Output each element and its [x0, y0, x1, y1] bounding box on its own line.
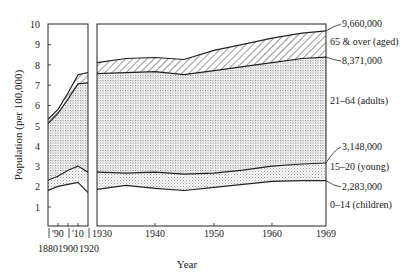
- x-tick-1960: 1960: [262, 228, 282, 239]
- y-axis-title: Population (per 100,000): [12, 70, 25, 181]
- x-tick-1940: 1940: [145, 228, 165, 239]
- y-tick-10: 10: [30, 19, 40, 30]
- x-axis-title: Year: [177, 258, 198, 270]
- x-tick-1969: 1969: [316, 228, 336, 239]
- annotations: 9,660,000 65 & over (aged) 8,371,000 21–…: [330, 18, 399, 211]
- adults-label: 21–64 (adults): [330, 95, 388, 107]
- adults-top-annotation: 8,371,000: [342, 55, 382, 66]
- x-tick-1910: '10: [72, 228, 84, 239]
- young-top-annotation: 3,148,000: [342, 141, 382, 152]
- y-tick-1: 1: [35, 202, 40, 213]
- y-tick-8: 8: [35, 60, 40, 71]
- y-tick-7: 7: [35, 80, 40, 91]
- young-label: 15–20 (young): [330, 161, 389, 173]
- children-label: 0–14 (children): [330, 199, 392, 211]
- population-chart: 10 9 8 7 6 5 4 3 2 1 Population (per 100…: [0, 0, 420, 278]
- y-tick-9: 9: [35, 39, 40, 50]
- aged-label: 65 & over (aged): [330, 36, 399, 48]
- right-panel-areas: [97, 31, 326, 191]
- x-axis-labels: '90 '10 1930 1880 1900 1920 1940 1950 19…: [38, 228, 336, 270]
- x-tick-1930: 1930: [92, 228, 112, 239]
- y-tick-3: 3: [35, 161, 40, 172]
- y-tick-6: 6: [35, 100, 40, 111]
- x-tick-1950: 1950: [204, 228, 224, 239]
- left-panel-areas: [48, 73, 88, 193]
- x-tick-1880: 1880: [38, 243, 58, 254]
- y-axis: 10 9 8 7 6 5 4 3 2 1 Population (per 100…: [12, 19, 51, 213]
- y-tick-2: 2: [35, 181, 40, 192]
- total-annotation: 9,660,000: [342, 18, 382, 29]
- x-tick-1900: 1900: [58, 243, 78, 254]
- y-tick-5: 5: [35, 121, 40, 132]
- x-tick-1890: '90: [52, 228, 64, 239]
- y-tick-4: 4: [35, 141, 40, 152]
- children-top-annotation: 2,283,000: [342, 181, 382, 192]
- x-tick-1920: 1920: [79, 243, 99, 254]
